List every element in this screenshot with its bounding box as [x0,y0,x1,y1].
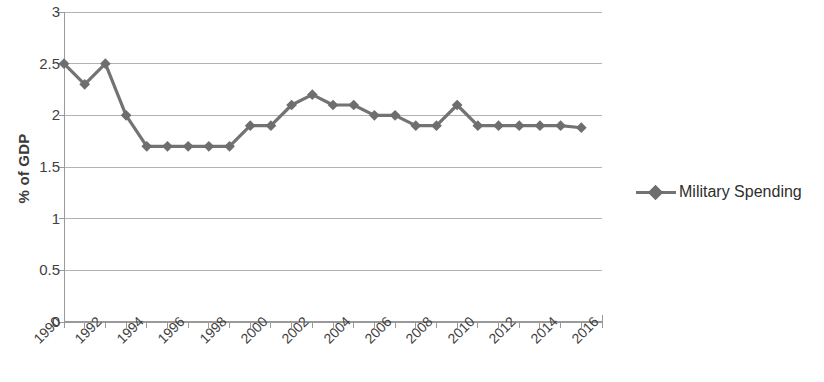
legend-marker-icon [636,185,676,199]
data-point-marker [576,122,587,133]
data-point-marker [390,110,401,121]
data-point-marker [348,100,359,111]
data-point-marker [535,120,546,131]
chart-legend: Military Spending [636,183,802,201]
data-point-marker [162,141,173,152]
data-point-marker [183,141,194,152]
y-tick-label: 2.5 [16,56,60,71]
data-series-layer [59,58,587,151]
y-tick-label: 0.5 [16,262,60,277]
data-point-marker [514,120,525,131]
data-point-marker [493,120,504,131]
military-spending-chart: % of GDP 00.511.522.53 19901992199419961… [0,0,824,382]
legend-label-military-spending: Military Spending [676,183,802,201]
data-point-marker [203,141,214,152]
series-line-0 [64,64,581,147]
data-point-marker [555,120,566,131]
y-tick-label: 1 [16,211,60,226]
y-tick-label: 3 [16,4,60,19]
data-point-marker [328,100,339,111]
y-tick-label: 2 [16,107,60,122]
y-tick-label: 1.5 [16,159,60,174]
data-point-marker [410,120,421,131]
data-point-marker [369,110,380,121]
data-point-marker [307,89,318,100]
